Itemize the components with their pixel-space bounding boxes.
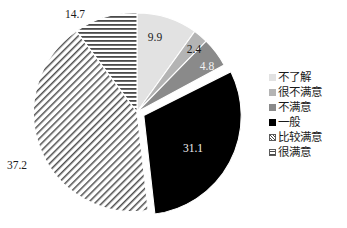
slice-label-bijiaomanyi: 37.2 [7,159,27,171]
legend-label: 不满意 [278,101,311,114]
pie-chart-svg: 9.9 2.4 4.8 31.1 14.7 37.2 [0,0,262,228]
legend-swatch-horizontal-lines-icon [269,149,276,156]
legend-swatch-dark-gray-icon [269,104,276,111]
legend-item-yiban[interactable]: 一般 [269,115,347,130]
slice-label-henmanyi: 14.7 [65,8,85,20]
legend-label: 很满意 [278,146,311,159]
legend-item-buliaojie[interactable]: 不了解 [269,70,347,85]
legend-swatch-black-icon [269,119,276,126]
slice-label-yiban: 31.1 [183,142,203,154]
legend: 不了解 很不满意 不满意 一般 比较满意 很满意 [269,70,347,160]
legend-swatch-diagonal-hatch-icon [269,134,276,141]
legend-label: 不了解 [278,71,311,84]
legend-label: 很不满意 [278,86,322,99]
legend-item-bumanyi[interactable]: 不满意 [269,100,347,115]
legend-swatch-gray-icon [269,89,276,96]
pie-chart-plot-area: 9.9 2.4 4.8 31.1 14.7 37.2 [0,0,262,228]
slice-label-buliaojie: 9.9 [148,31,163,43]
legend-swatch-light-gray-icon [269,74,276,81]
legend-label: 一般 [278,116,300,129]
legend-item-bijiaomanyi[interactable]: 比较满意 [269,130,347,145]
legend-label: 比较满意 [278,131,322,144]
slice-label-henbumanyi: 2.4 [187,43,202,55]
legend-item-henmanyi[interactable]: 很满意 [269,145,347,160]
legend-item-henbumanyi[interactable]: 很不满意 [269,85,347,100]
slice-label-bumanyi: 4.8 [200,60,215,72]
pie-chart-figure: 9.9 2.4 4.8 31.1 14.7 37.2 不了解 很不满意 不满意 … [0,0,347,228]
